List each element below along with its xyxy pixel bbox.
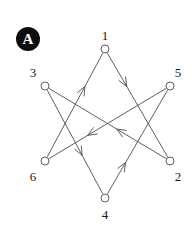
node-6[interactable]	[41, 157, 49, 165]
node-label-6: 6	[25, 170, 41, 183]
node-2[interactable]	[166, 157, 174, 165]
edge-6-to-1	[47, 54, 102, 157]
node-label-4: 4	[97, 208, 113, 221]
node-label-1: 1	[97, 29, 113, 42]
arrowhead-1-to-2	[119, 77, 127, 86]
node-label-3: 3	[25, 66, 41, 79]
node-label-2: 2	[170, 170, 186, 183]
node-1[interactable]	[101, 45, 109, 53]
node-label-5: 5	[170, 66, 186, 79]
node-3[interactable]	[41, 82, 49, 90]
node-5[interactable]	[166, 82, 174, 90]
node-4[interactable]	[101, 194, 109, 202]
arrowhead-4-to-5	[118, 163, 126, 172]
arrowhead-6-to-1	[78, 86, 85, 95]
edge-3-to-4	[47, 91, 102, 194]
figure-panel: A 135624	[0, 0, 192, 226]
arrowhead-3-to-4	[75, 146, 82, 155]
edge-layer	[47, 53, 167, 193]
panel-badge-a: A	[16, 27, 40, 51]
